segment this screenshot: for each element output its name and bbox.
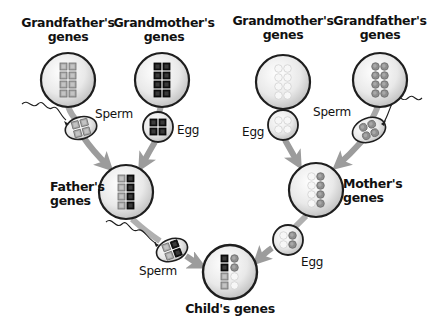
label-sperm-paternal: Sperm	[95, 108, 133, 121]
label-mother: Mother's genes	[343, 177, 402, 205]
label-egg-maternal: Egg	[242, 126, 264, 139]
maternal-grandmother-cell	[256, 55, 310, 109]
father-cell	[99, 165, 153, 219]
arrow-sperm-to-child	[186, 256, 200, 265]
sperm-cell-paternal	[63, 113, 100, 143]
label-paternal-grandmother: Grandmother's genes	[112, 16, 216, 44]
maternal-grandfather-cell	[353, 53, 407, 107]
label-egg-mother: Egg	[301, 256, 323, 269]
label-child: Child's genes	[170, 302, 290, 316]
label-egg-paternal: Egg	[177, 124, 199, 137]
label-sperm-father: Sperm	[139, 265, 177, 278]
label-maternal-grandfather: Grandfather's genes	[330, 14, 430, 42]
egg-cell-mother	[273, 225, 303, 255]
label-maternal-grandmother: Grandmother's genes	[231, 14, 335, 42]
mother-cell	[289, 163, 343, 217]
arrow-egg-to-father	[142, 142, 155, 165]
sperm-cell-maternal	[349, 113, 389, 147]
egg-cell-maternal	[268, 110, 298, 140]
stalk-father-to-sperm	[132, 219, 160, 241]
egg-cell-paternal	[143, 112, 173, 142]
arrow-sperm-to-mother	[338, 141, 362, 165]
arrow-egg-to-child	[258, 248, 272, 260]
label-sperm-maternal: Sperm	[313, 106, 351, 119]
arrow-egg-to-mother	[285, 140, 298, 163]
paternal-grandfather-cell	[41, 53, 95, 107]
gene-inheritance-diagram	[0, 0, 446, 327]
label-father: Father's genes	[50, 180, 105, 208]
label-paternal-grandfather: Grandfather's genes	[18, 16, 118, 44]
arrow-sperm-to-father	[84, 138, 108, 166]
child-cell	[203, 245, 257, 299]
paternal-grandmother-cell	[135, 53, 189, 107]
